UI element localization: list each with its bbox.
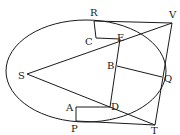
label-A: A xyxy=(65,102,74,113)
line-ST xyxy=(27,74,155,125)
line-BQ xyxy=(117,66,162,77)
label-E: E xyxy=(117,32,124,43)
label-P: P xyxy=(71,123,78,134)
line-SV xyxy=(27,23,172,74)
label-V: V xyxy=(168,9,177,20)
label-Q: Q xyxy=(164,73,172,84)
line-RV xyxy=(94,21,172,23)
label-T: T xyxy=(151,125,158,135)
label-R: R xyxy=(90,7,98,18)
ellipse-geometry-diagram: R V C E S B Q D A P T xyxy=(0,0,180,135)
line-PAD xyxy=(76,107,110,121)
line-PT xyxy=(76,121,155,125)
label-D: D xyxy=(111,101,119,112)
line-ED xyxy=(110,39,120,107)
label-B: B xyxy=(107,60,114,71)
label-S: S xyxy=(18,70,25,81)
label-C: C xyxy=(85,36,93,47)
